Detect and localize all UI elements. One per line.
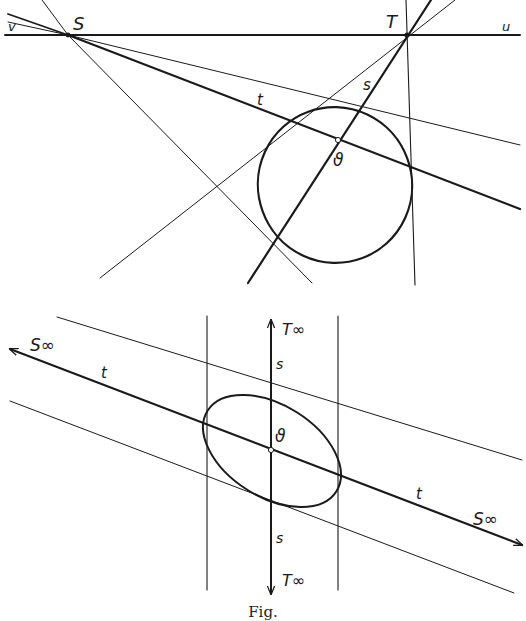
label-t-bottom-right: t <box>416 485 423 503</box>
label-v: v <box>8 19 16 34</box>
label-S-inf-left: S∞ <box>30 335 55 355</box>
tangent-from-T-vertical <box>406 0 415 285</box>
label-t-top: t <box>257 91 264 109</box>
label-S: S <box>73 13 84 34</box>
label-S-inf-right: S∞ <box>473 509 498 529</box>
figure-caption: Fig. <box>0 603 526 621</box>
label-center-top: ϑ <box>333 150 344 170</box>
point-T <box>404 32 409 37</box>
label-center-bottom: ϑ <box>275 426 286 446</box>
label-s-bottom-bottom: s <box>276 530 283 546</box>
bottom-panel <box>10 316 522 594</box>
line-t-bottom <box>10 349 522 545</box>
point-center-bottom <box>268 447 273 452</box>
label-T: T <box>386 11 399 32</box>
top-panel <box>5 0 520 285</box>
label-s-top: s <box>363 76 371 94</box>
tangent-from-S-upper <box>68 35 520 145</box>
label-T-inf-top: T∞ <box>282 320 305 339</box>
point-center-top <box>335 137 340 142</box>
label-T-inf-bottom: T∞ <box>282 571 305 590</box>
line-left-of-S-thick <box>8 14 68 35</box>
label-s-bottom-top: s <box>276 356 283 372</box>
label-t-bottom-left: t <box>101 364 108 382</box>
line-t <box>68 35 520 209</box>
label-u: u <box>502 19 510 34</box>
point-S <box>66 33 71 38</box>
tangent-from-S-lower <box>68 35 312 283</box>
